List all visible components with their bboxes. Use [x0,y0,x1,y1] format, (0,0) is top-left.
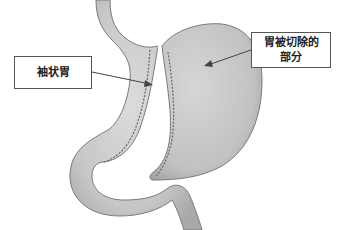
label-removed-part-line2: 部分 [252,50,330,65]
label-sleeve-stomach-text: 袖状胃 [37,66,70,79]
label-removed-part-line1: 胃被切除的 [252,35,330,50]
label-sleeve-stomach: 袖状胃 [14,56,92,89]
sleeve-gastrectomy-diagram: 袖状胃 胃被切除的 部分 [0,0,341,230]
label-removed-part: 胃被切除的 部分 [251,32,331,68]
